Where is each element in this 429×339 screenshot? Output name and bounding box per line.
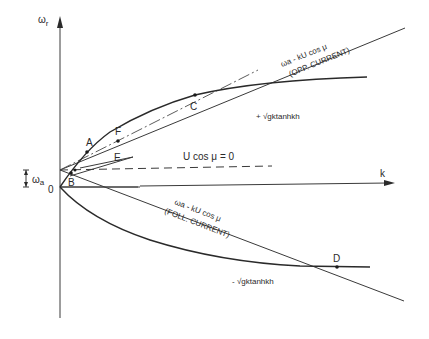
opp-current-line: [60, 28, 405, 170]
point-e-marker: [74, 169, 77, 172]
omega-a-label: ωa: [32, 174, 45, 187]
point-e-label: E: [114, 152, 121, 163]
y-axis-label: ωr: [38, 14, 49, 28]
point-c-marker: [193, 93, 197, 97]
point-b-marker: [69, 171, 73, 175]
point-b-label: B: [68, 177, 75, 188]
point-f-label: F: [115, 126, 121, 137]
point-c-label: C: [190, 101, 197, 112]
point-a-marker: [85, 150, 89, 154]
x-axis-label: k: [380, 168, 386, 179]
origin-label: 0: [48, 184, 54, 195]
plus-dispersion-curve: [60, 77, 367, 187]
dispersion-diagram: ωr k 0 ωa A B C D E F U cos μ = 0 ωa - k…: [0, 0, 429, 339]
plus-branch-label: + √gktanhkh: [256, 112, 300, 121]
minus-branch-label: - √gktanhkh: [232, 277, 274, 286]
point-d-label: D: [333, 253, 340, 264]
point-a-label: A: [86, 137, 93, 148]
zero-current-label: U cos μ = 0: [183, 151, 234, 162]
x-axis-arrow-icon: [384, 180, 395, 186]
point-d-marker: [335, 265, 339, 269]
y-axis-arrow-icon: [57, 16, 63, 28]
point-f-marker: [116, 139, 120, 143]
